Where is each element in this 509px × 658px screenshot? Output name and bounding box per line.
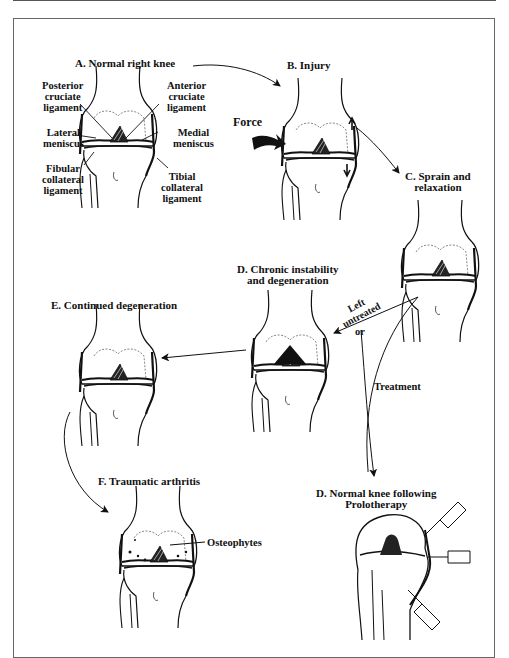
osteophytes-label: Osteophytes <box>207 537 262 548</box>
label-line: Lateral <box>43 127 84 138</box>
label-medial-meniscus: Medial meniscus <box>173 127 214 149</box>
label-line: Anterior <box>167 80 206 91</box>
force-label: Force <box>233 117 262 128</box>
arrow-e-to-f <box>64 412 108 512</box>
chronic-damage-mark <box>274 345 306 364</box>
label-line: ligament <box>161 193 203 204</box>
pointer-posterior-cruciate <box>80 104 112 138</box>
knee-c-illustration <box>402 200 479 342</box>
title-line: relaxation <box>405 182 471 193</box>
knee-d-normal-illustration <box>356 515 430 640</box>
panel-a-title: A. Normal right knee <box>75 58 175 69</box>
panel-c-title: C. Sprain and relaxation <box>405 171 471 193</box>
panel-d-chronic-title: D. Chronic instability and degeneration <box>237 264 339 286</box>
treatment-label: Treatment <box>374 381 421 392</box>
down-arrow-icon <box>344 164 350 176</box>
pointer-fibular-collateral <box>84 152 94 165</box>
label-line: meniscus <box>173 138 214 149</box>
label-line: cruciate <box>167 91 206 102</box>
label-line: Posterior <box>42 80 83 91</box>
label-line: Medial <box>173 127 214 138</box>
label-tibial-collateral-ligament: Tibial collateral ligament <box>161 171 203 204</box>
or-label: or <box>355 326 365 337</box>
panel-e-title: E. Continued degeneration <box>51 300 177 311</box>
label-line: collateral <box>42 174 84 185</box>
syringe-icon <box>408 590 440 630</box>
title-line: and degeneration <box>237 275 339 286</box>
knee-e-illustration <box>80 304 157 446</box>
pointer-osteophytes <box>170 542 205 545</box>
panel-b-title: B. Injury <box>287 60 330 71</box>
arrow-b-to-c <box>357 128 399 173</box>
label-line: Tibial <box>161 171 203 182</box>
pointer-tibial-collateral <box>157 158 168 168</box>
label-line: cruciate <box>42 91 83 102</box>
label-line: ligament <box>42 102 83 113</box>
label-posterior-cruciate-ligament: Posterior cruciate ligament <box>42 80 83 113</box>
panel-f-title: F. Traumatic arthritis <box>98 476 200 487</box>
label-line: ligament <box>42 185 84 196</box>
arrow-d-to-e <box>162 350 246 358</box>
label-line: ligament <box>167 102 206 113</box>
knee-b-illustration <box>282 78 359 220</box>
knee-f-illustration <box>120 486 197 628</box>
panel-d-normal-title: D. Normal knee following Prolotherapy <box>316 488 436 510</box>
title-line: Prolotherapy <box>316 499 436 510</box>
label-lateral-meniscus: Lateral meniscus <box>43 127 84 149</box>
label-anterior-cruciate-ligament: Anterior cruciate ligament <box>167 80 206 113</box>
label-line: collateral <box>161 182 203 193</box>
label-line: meniscus <box>43 138 84 149</box>
label-line: Fibular <box>42 163 84 174</box>
syringe-icon <box>428 551 470 563</box>
label-fibular-collateral-ligament: Fibular collateral ligament <box>42 163 84 196</box>
